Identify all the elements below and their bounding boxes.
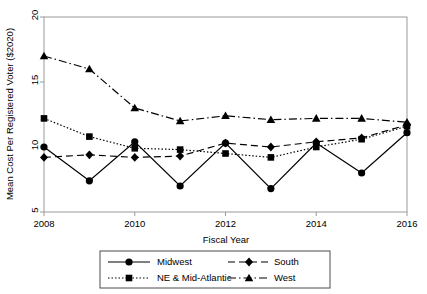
legend-marker-square (126, 275, 133, 282)
chart-legend: MidwestSouthNE & Mid-AtlanticWest (100, 251, 330, 288)
marker-circle (177, 182, 184, 189)
marker-circle (131, 138, 138, 145)
legend-label: Midwest (157, 256, 192, 267)
marker-square (41, 115, 48, 122)
y-tick-label: 10 (29, 140, 40, 151)
marker-circle (125, 258, 132, 265)
x-tick-label: 2008 (33, 218, 54, 229)
x-tick-label: 2010 (124, 218, 145, 229)
legend-label: South (274, 256, 299, 267)
y-tick-label: 5 (29, 207, 40, 212)
marker-square (131, 145, 138, 152)
y-tick-label: 15 (29, 75, 40, 86)
x-tick-label: 2014 (306, 218, 327, 229)
marker-square (268, 154, 275, 161)
marker-circle (40, 143, 47, 150)
marker-square (86, 133, 93, 140)
legend-marker-circle (125, 258, 132, 265)
x-tick-label: 2016 (396, 218, 417, 229)
y-tick-label: 20 (29, 10, 40, 21)
marker-square (126, 275, 133, 282)
chart-figure: 5101520 20082010201220142016 Mean Cost P… (0, 0, 427, 294)
x-axis-title: Fiscal Year (203, 234, 249, 245)
marker-circle (86, 177, 93, 184)
marker-circle (267, 185, 274, 192)
marker-square (222, 150, 229, 157)
y-axis-title: Mean Cost Per Registered Voter ($2020) (4, 28, 15, 200)
legend-label: NE & Mid-Atlantic (157, 272, 232, 283)
legend-label: West (274, 272, 296, 283)
line-chart: 5101520 20082010201220142016 Mean Cost P… (0, 0, 427, 294)
marker-circle (358, 169, 365, 176)
marker-circle (403, 129, 410, 136)
x-tick-label: 2012 (215, 218, 236, 229)
